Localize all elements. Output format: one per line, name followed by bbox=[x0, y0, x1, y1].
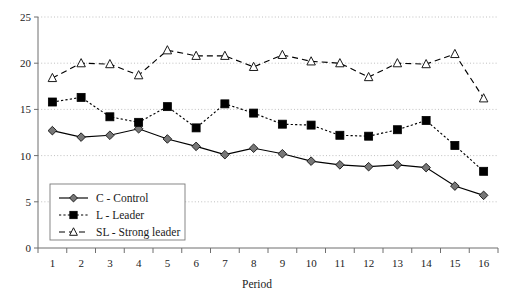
data-point-square bbox=[135, 118, 143, 126]
x-tick-label: 7 bbox=[222, 257, 228, 269]
data-point-triangle bbox=[479, 94, 487, 102]
x-tick-labels-group: 12345678910111213141516 bbox=[50, 257, 490, 269]
series-3 bbox=[48, 46, 488, 102]
y-tick-labels-group: 0510152025 bbox=[20, 11, 32, 254]
y-tick-label: 15 bbox=[20, 103, 32, 115]
data-point-square bbox=[480, 167, 488, 175]
legend-entry-label-1: C - Control bbox=[96, 192, 148, 204]
data-point-square bbox=[365, 132, 373, 140]
data-point-diamond bbox=[249, 144, 258, 153]
data-point-diamond bbox=[393, 161, 402, 170]
data-point-diamond bbox=[48, 126, 57, 135]
series-line bbox=[52, 50, 483, 98]
data-point-triangle bbox=[451, 49, 459, 57]
y-tick-label: 5 bbox=[26, 196, 32, 208]
x-tick-label: 5 bbox=[165, 257, 171, 269]
x-tick-label: 1 bbox=[50, 257, 56, 269]
data-point-diamond bbox=[479, 191, 488, 200]
chart-container: 0510152025 12345678910111213141516 Perio… bbox=[0, 0, 515, 304]
line-chart: 0510152025 12345678910111213141516 Perio… bbox=[0, 0, 515, 304]
data-series-group bbox=[48, 46, 488, 200]
x-tick-label: 8 bbox=[251, 257, 257, 269]
data-point-square bbox=[221, 100, 229, 108]
data-point-square bbox=[307, 121, 315, 129]
y-tick-label: 0 bbox=[26, 242, 32, 254]
data-point-diamond bbox=[278, 149, 287, 158]
y-tick-label: 25 bbox=[20, 11, 32, 23]
y-tick-label: 10 bbox=[20, 150, 32, 162]
data-point-triangle bbox=[106, 60, 114, 68]
data-point-diamond bbox=[77, 133, 86, 142]
x-axis-title: Period bbox=[242, 278, 272, 290]
data-point-triangle bbox=[163, 46, 171, 54]
data-point-square bbox=[163, 103, 171, 111]
x-tick-label: 2 bbox=[78, 257, 84, 269]
data-point-diamond bbox=[192, 142, 201, 151]
y-tick-label: 20 bbox=[20, 57, 32, 69]
x-tick-label: 6 bbox=[193, 257, 199, 269]
data-point-diamond bbox=[106, 131, 115, 140]
data-point-square bbox=[336, 131, 344, 139]
data-point-square bbox=[77, 93, 85, 101]
data-point-square bbox=[451, 141, 459, 149]
legend-entry-label-2: L - Leader bbox=[96, 209, 144, 221]
data-point-diamond bbox=[422, 163, 431, 172]
x-tick-label: 10 bbox=[306, 257, 318, 269]
x-tick-label: 9 bbox=[280, 257, 286, 269]
data-point-diamond bbox=[307, 157, 316, 166]
gridlines-group bbox=[38, 17, 498, 202]
data-point-triangle bbox=[77, 59, 85, 67]
data-point-square bbox=[106, 113, 114, 121]
x-tick-label: 11 bbox=[335, 257, 346, 269]
data-point-diamond bbox=[221, 150, 230, 159]
data-point-diamond bbox=[336, 161, 345, 170]
data-point-diamond bbox=[364, 162, 373, 171]
data-point-square bbox=[278, 120, 286, 128]
data-point-square bbox=[250, 109, 258, 117]
x-tick-label: 16 bbox=[478, 257, 490, 269]
x-tick-label: 3 bbox=[107, 257, 113, 269]
data-point-triangle bbox=[307, 57, 315, 65]
x-tick-label: 12 bbox=[363, 257, 374, 269]
data-point-triangle bbox=[364, 72, 372, 80]
data-point-square bbox=[393, 126, 401, 134]
data-point-diamond bbox=[163, 135, 172, 144]
data-point-triangle bbox=[278, 50, 286, 58]
data-point-triangle bbox=[134, 71, 142, 79]
x-tick-label: 15 bbox=[449, 257, 461, 269]
data-point-square bbox=[192, 124, 200, 132]
legend-entry-label-3: SL - Strong leader bbox=[96, 226, 180, 239]
series-line bbox=[52, 97, 483, 171]
data-point-square bbox=[70, 211, 77, 218]
x-tick-label: 13 bbox=[392, 257, 404, 269]
data-point-diamond bbox=[451, 182, 460, 191]
data-point-triangle bbox=[48, 73, 56, 81]
data-point-triangle bbox=[393, 59, 401, 67]
chart-legend: C - ControlL - LeaderSL - Strong leader bbox=[50, 184, 185, 240]
data-point-square bbox=[422, 116, 430, 124]
data-point-square bbox=[48, 98, 56, 106]
x-tick-label: 14 bbox=[421, 257, 433, 269]
x-tick-label: 4 bbox=[136, 257, 142, 269]
